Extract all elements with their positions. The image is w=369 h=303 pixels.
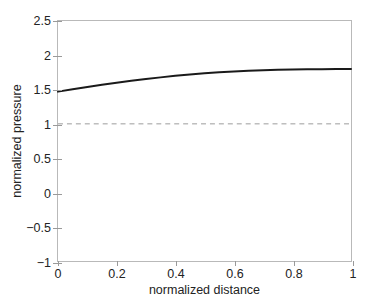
y-tick-mark-inner — [58, 56, 62, 57]
x-tick-mark — [58, 261, 59, 266]
plot-area: −1−0.500.511.522.500.20.40.60.81 — [57, 20, 352, 262]
x-tick-label: 0.8 — [285, 268, 302, 281]
y-axis-title: normalized pressure — [11, 84, 24, 197]
x-tick-label: 0.2 — [108, 268, 125, 281]
y-tick-label: 2 — [44, 49, 51, 62]
x-tick-mark — [235, 261, 236, 266]
y-tick-label: 1 — [44, 118, 51, 131]
x-tick-label: 0 — [55, 268, 62, 281]
y-tick-label: −1 — [37, 257, 51, 270]
y-tick-label: 1.5 — [34, 84, 51, 97]
x-tick-label: 0.6 — [226, 268, 243, 281]
data-layer — [58, 21, 351, 261]
y-tick-label: 2.5 — [34, 15, 51, 28]
x-tick-mark — [294, 261, 295, 266]
x-axis-title: normalized distance — [57, 284, 352, 297]
x-tick-mark — [117, 261, 118, 266]
pressure-curve — [58, 69, 351, 92]
y-tick-mark-inner — [58, 159, 62, 160]
y-tick-mark-inner — [58, 228, 62, 229]
y-tick-mark-inner — [58, 90, 62, 91]
y-tick-label: 0 — [44, 188, 51, 201]
y-tick-mark-inner — [58, 194, 62, 195]
x-tick-mark — [353, 261, 354, 266]
x-tick-label: 0.4 — [167, 268, 184, 281]
y-tick-label: 0.5 — [34, 153, 51, 166]
y-tick-mark-inner — [58, 21, 62, 22]
x-tick-label: 1 — [350, 268, 357, 281]
x-tick-mark — [176, 261, 177, 266]
y-tick-label: −0.5 — [26, 222, 51, 235]
chart-figure: −1−0.500.511.522.500.20.40.60.81 normali… — [0, 0, 369, 303]
y-tick-mark-inner — [58, 125, 62, 126]
